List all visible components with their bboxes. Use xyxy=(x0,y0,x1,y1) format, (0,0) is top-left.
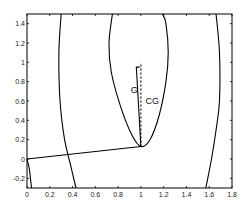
x-tick-label: 0.6 xyxy=(90,191,100,198)
inner-contour-line xyxy=(109,14,168,147)
y-tick-label: 1 xyxy=(21,59,25,66)
contour-chart: 00.20.40.60.811.21.41.61.8-0.200.20.40.6… xyxy=(0,0,247,203)
x-tick-label: 0.8 xyxy=(113,191,123,198)
left-curve-line xyxy=(27,159,32,188)
x-tick-label: 1.8 xyxy=(227,191,237,198)
outer-left-contour-line xyxy=(59,14,76,188)
x-tick-label: 0 xyxy=(25,191,29,198)
x-tick-label: 0.2 xyxy=(45,191,55,198)
annotation-g: G xyxy=(131,85,138,95)
G-line xyxy=(136,67,141,146)
y-tick-label: 1.2 xyxy=(15,40,25,47)
x-tick-label: 0.4 xyxy=(68,191,78,198)
y-tick-label: 0.6 xyxy=(15,98,25,105)
y-tick-label: 0 xyxy=(21,156,25,163)
x-tick-label: 1.4 xyxy=(182,191,192,198)
y-tick-label: 0.2 xyxy=(15,136,25,143)
y-tick-label: 1.4 xyxy=(15,20,25,27)
plot-frame xyxy=(27,14,232,188)
trajectory-line xyxy=(27,146,141,159)
axis-ticks: 00.20.40.60.811.21.41.61.8-0.200.20.40.6… xyxy=(13,14,237,198)
plot-lines xyxy=(27,14,220,188)
x-tick-label: 1.2 xyxy=(159,191,169,198)
annotation-cg: CG xyxy=(145,96,159,106)
outer-right-contour-line xyxy=(206,14,220,188)
y-tick-label: 0.4 xyxy=(15,117,25,124)
annotations: GCG xyxy=(131,85,159,106)
x-tick-label: 1.6 xyxy=(204,191,214,198)
y-tick-label: -0.2 xyxy=(13,175,25,182)
y-tick-label: 0.8 xyxy=(15,78,25,85)
x-tick-label: 1 xyxy=(139,191,143,198)
